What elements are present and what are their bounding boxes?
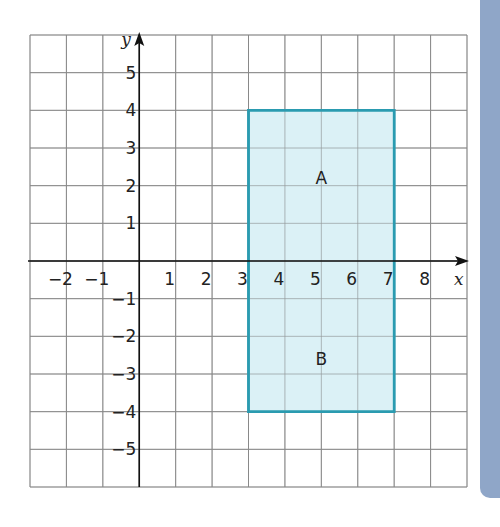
x-tick-label: 4 — [274, 269, 285, 289]
x-tick-label: 2 — [201, 269, 212, 289]
x-tick-label: −2 — [48, 269, 73, 289]
y-tick-label: 1 — [125, 213, 136, 233]
x-tick-label: 1 — [164, 269, 175, 289]
y-tick-label: 3 — [125, 138, 136, 158]
y-tick-label: −5 — [111, 439, 136, 459]
y-axis-label: y — [120, 29, 131, 49]
x-tick-label: 8 — [419, 269, 430, 289]
y-tick-label: −3 — [111, 364, 136, 384]
region-label-b: B — [315, 349, 327, 369]
x-tick-label: −1 — [84, 269, 109, 289]
y-tick-label: −4 — [111, 402, 136, 422]
region-label-a: A — [316, 168, 328, 188]
x-tick-label: 3 — [237, 269, 248, 289]
y-tick-label: −2 — [111, 326, 136, 346]
x-tick-label: 7 — [383, 269, 394, 289]
x-tick-label: 6 — [346, 269, 357, 289]
y-tick-label: 2 — [125, 176, 136, 196]
y-tick-label: 5 — [125, 63, 136, 83]
y-tick-label: 4 — [125, 100, 136, 120]
x-tick-label: 5 — [310, 269, 321, 289]
x-axis-label: x — [454, 269, 464, 289]
y-tick-label: −1 — [111, 289, 136, 309]
